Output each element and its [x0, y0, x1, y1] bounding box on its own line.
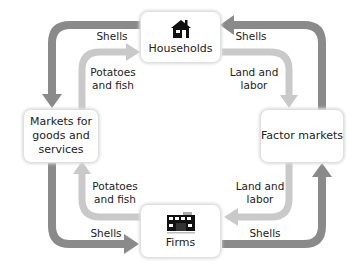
arrowhead	[280, 95, 298, 108]
flow-label-labor-top-right: Land and labor	[228, 66, 280, 92]
firms-label: Firms	[166, 236, 195, 250]
factor-markets-label: Factor markets	[261, 129, 343, 143]
arrowhead	[312, 163, 332, 177]
households-label: Households	[149, 42, 213, 56]
firms-node: Firms	[141, 205, 220, 257]
factor-markets-node: Factor markets	[261, 110, 343, 162]
arrowhead	[42, 94, 62, 108]
arrowhead	[224, 208, 238, 226]
factory-icon	[166, 212, 196, 234]
flow-label-labor-bottom-right: Land and labor	[234, 180, 286, 206]
arrowhead	[124, 234, 139, 254]
goods-markets-label-line: services	[38, 143, 83, 157]
flow-label-potatoes-top-left: Potatoes and fish	[88, 66, 138, 92]
goods-markets-label-line: goods and	[32, 129, 89, 143]
flow-label-potatoes-bottom-left: Potatoes and fish	[90, 180, 140, 206]
goods-markets-node: Markets for goods and services	[24, 110, 98, 162]
flow-label-shells-top-left: Shells	[92, 30, 132, 43]
arrowhead	[126, 43, 140, 61]
house-icon	[170, 19, 192, 39]
flow-label-shells-bottom-left: Shells	[86, 227, 126, 240]
households-node: Households	[141, 12, 220, 62]
arrowhead	[73, 161, 91, 174]
flow-label-shells-bottom-right: Shells	[245, 227, 285, 240]
flow-label-shells-top-right: Shells	[231, 30, 271, 43]
goods-markets-label-line: Markets for	[30, 115, 92, 129]
